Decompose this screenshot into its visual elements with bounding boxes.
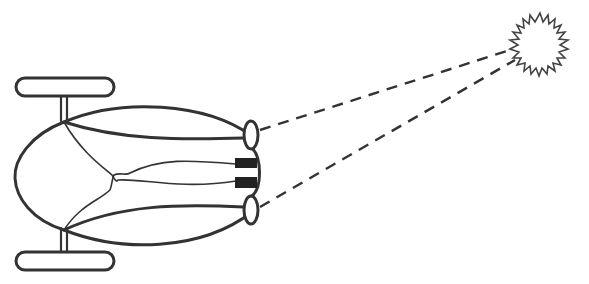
bottom-receptor — [235, 177, 257, 188]
bottom-sight-line — [260, 60, 515, 207]
vehicle-diagram — [0, 0, 589, 284]
top-receptor — [235, 158, 257, 168]
top-eye — [244, 121, 258, 149]
star-light-icon — [510, 13, 568, 76]
wire-top-to-bottom-receptor — [64, 122, 236, 184]
diagram-stage — [0, 0, 589, 284]
upper-inner-curve — [64, 122, 244, 139]
nose-curve — [252, 148, 260, 196]
top-wheel — [16, 78, 114, 96]
bottom-wheel — [16, 252, 114, 270]
lower-inner-curve — [64, 206, 244, 230]
oval-body — [15, 107, 252, 245]
top-axle — [61, 97, 67, 121]
top-sight-line — [260, 50, 510, 130]
bottom-eye — [244, 196, 258, 224]
